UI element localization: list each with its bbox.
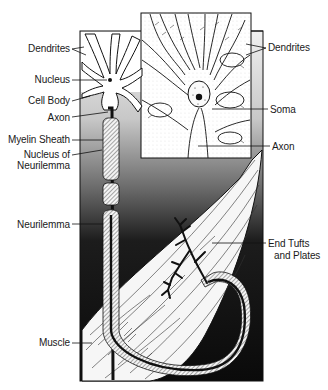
label-axon-inset: Axon	[272, 141, 294, 152]
inset-nucleolus	[196, 94, 202, 100]
label-dendrites-inset: Dendrites	[268, 42, 310, 53]
label-end-tufts: End Tufts	[268, 238, 309, 249]
motor-neuron-diagram	[0, 0, 328, 390]
soma-inset	[141, 13, 251, 158]
label-neurilemma-1: Neurilemma	[17, 160, 70, 171]
label-nucleus: Nucleus	[35, 74, 70, 85]
label-cell-body: Cell Body	[28, 95, 70, 106]
label-and-plates: and Plates	[274, 250, 320, 261]
myelin-segment	[103, 118, 119, 180]
nucleus-dot	[108, 78, 112, 82]
label-nucleus-of: Nucleus of	[24, 149, 70, 160]
label-dendrites: Dendrites	[28, 43, 70, 54]
label-myelin-sheath: Myelin Sheath	[8, 134, 70, 145]
label-neurilemma-2: Neurilemma	[17, 219, 70, 230]
label-soma: Soma	[270, 104, 296, 115]
label-axon: Axon	[48, 112, 70, 123]
myelin-segment	[103, 183, 119, 205]
label-muscle: Muscle	[39, 337, 70, 348]
